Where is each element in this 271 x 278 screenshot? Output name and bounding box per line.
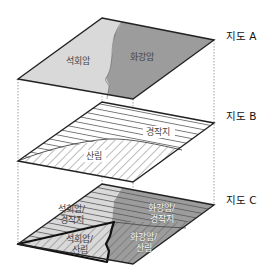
map-c-layer: 석회암/ 경작지 화강암/ 경작지 석회암/ 산림 화강암/ 산림 지도 C xyxy=(18,184,257,264)
map-c-title: 지도 C xyxy=(226,194,257,206)
map-c-label-granite-forest-2: 산림 xyxy=(136,242,152,253)
map-c-label-granite-cultivated-1: 화강암/ xyxy=(148,202,176,213)
map-b-layer: 경작지 산림 지도 B xyxy=(18,102,257,182)
map-a-label-limestone: 석회암 xyxy=(66,55,90,66)
map-c-label-limestone-cultivated-1: 석회암/ xyxy=(58,203,86,214)
map-a-label-granite: 화강암 xyxy=(130,51,154,62)
map-b-title: 지도 B xyxy=(226,110,257,122)
map-b-label-forest: 산림 xyxy=(86,150,102,161)
map-a-granite-area xyxy=(106,22,214,99)
map-b-label-cultivated: 경작지 xyxy=(146,126,170,137)
map-a-layer: 석회암 화강암 지도 A xyxy=(18,18,257,99)
map-c-label-limestone-forest-2: 산림 xyxy=(72,244,88,255)
map-overlay-diagram: 석회암/ 경작지 화강암/ 경작지 석회암/ 산림 화강암/ 산림 지도 C 경… xyxy=(0,0,271,278)
map-c-label-granite-cultivated-2: 경작지 xyxy=(150,213,174,224)
map-a-title: 지도 A xyxy=(226,30,257,42)
map-c-label-limestone-cultivated-2: 경작지 xyxy=(60,214,84,225)
map-c-label-granite-forest-1: 화강암/ xyxy=(130,231,158,242)
map-c-label-limestone-forest-1: 석회암/ xyxy=(66,233,94,244)
